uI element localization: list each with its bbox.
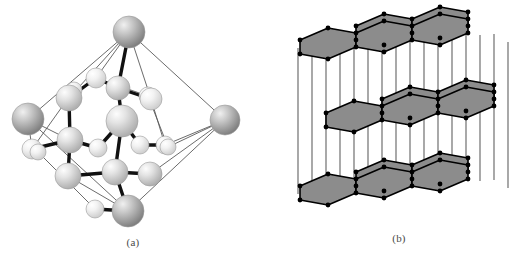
atom-corner-left <box>12 103 44 135</box>
panel-graphite: (b) <box>266 0 532 262</box>
atom-center-large <box>106 105 138 137</box>
atom-mid-right-small <box>131 136 149 154</box>
diamond-atoms <box>12 16 240 227</box>
caption-panel-a: (a) <box>0 236 266 248</box>
diamond-structure-diagram <box>0 0 266 262</box>
panel-diamond: (a) <box>0 0 266 262</box>
atom-mid-left <box>57 127 83 153</box>
atom-corner-right <box>210 105 240 135</box>
atom-low-front-small <box>86 200 104 218</box>
hexagon <box>326 101 382 132</box>
caption-panel-b: (b) <box>266 232 532 244</box>
hexagon <box>300 174 356 205</box>
atom-edge-left-small <box>30 144 46 160</box>
atom-mid-left-small <box>89 139 107 157</box>
atom-low-left <box>55 163 81 189</box>
atom-cell-top-left <box>56 85 82 111</box>
atom-low-right <box>138 162 162 186</box>
hexagon <box>300 28 356 59</box>
atom-cell-top-back <box>86 68 106 88</box>
graphite-structure-diagram <box>266 0 532 262</box>
atom-cell-top-front <box>140 88 162 110</box>
atom-corner-top <box>113 16 145 48</box>
figure-root: (a) <box>0 0 532 262</box>
atom-low-center <box>102 159 128 185</box>
atom-corner-bottom <box>112 195 144 227</box>
atom-cell-top-right <box>106 76 130 100</box>
atom-edge-right-small <box>160 139 176 155</box>
